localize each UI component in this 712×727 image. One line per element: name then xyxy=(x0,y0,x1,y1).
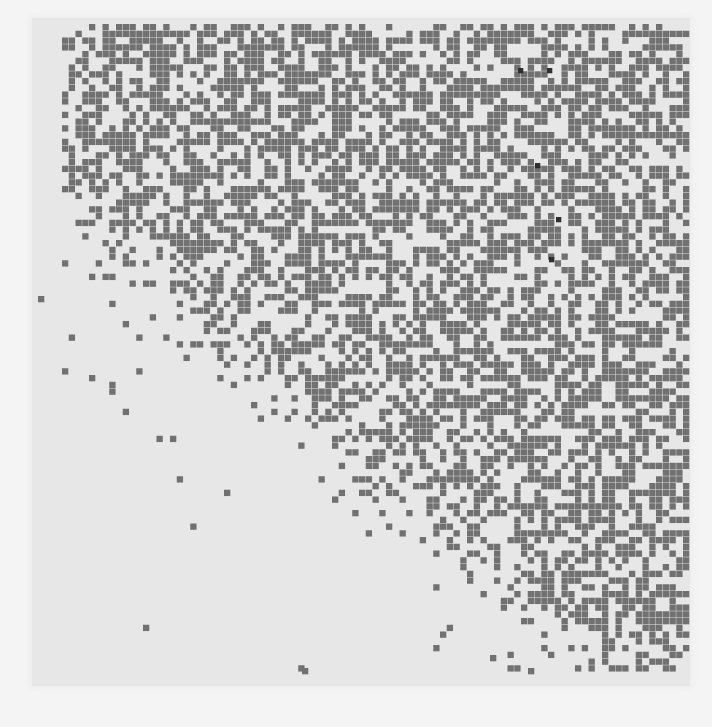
occupied-cells-grid xyxy=(0,0,712,727)
lattice-figure xyxy=(0,0,712,727)
